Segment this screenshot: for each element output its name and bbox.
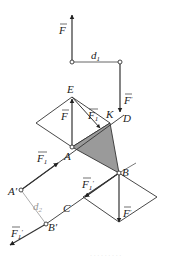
lower-rhombus	[83, 173, 157, 222]
label-K: K	[105, 108, 114, 120]
force-F1-left-arrow	[21, 163, 58, 190]
label-F-top: F	[58, 24, 66, 36]
point-B	[117, 171, 121, 175]
label-C: C	[63, 202, 71, 214]
label-B: B	[122, 166, 129, 178]
label-D: D	[122, 112, 131, 124]
label-F-mid: F	[60, 110, 68, 122]
point-left-top	[70, 60, 74, 64]
label-F1-prime-right: F1′	[81, 178, 94, 192]
label-F1-mid: F1	[87, 109, 98, 123]
label-A-prime: A′	[7, 185, 18, 197]
label-d1: d1	[91, 49, 100, 63]
label-d2: d2	[33, 200, 43, 214]
label-F-prime-top: F′	[123, 94, 133, 106]
label-B-prime: B′	[48, 221, 58, 233]
point-A-prime	[19, 188, 23, 192]
label-F-prime-bottom: F′	[122, 207, 132, 219]
top-couple	[70, 15, 122, 112]
force-diagram: F d1 F′ E F F1 K D F1 A B A′ d2 F1′ C F′…	[0, 0, 171, 261]
point-right-top	[118, 60, 122, 64]
point-A	[70, 145, 74, 149]
caption: · · · · · · · · ·	[90, 252, 121, 258]
label-A: A	[63, 150, 71, 162]
label-F1-left: F1	[36, 152, 47, 166]
label-E: E	[66, 83, 74, 95]
force-F1-mid-arrow	[72, 97, 100, 128]
